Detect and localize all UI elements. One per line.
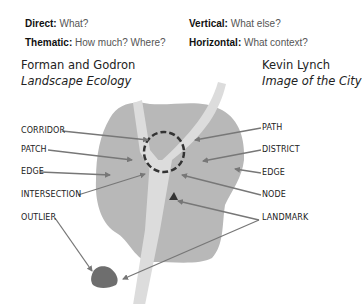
label-intersection: INTERSECTION	[21, 190, 81, 199]
label-path: PATH	[262, 123, 282, 132]
label-district: DISTRICT	[262, 145, 300, 154]
label-outlier: OUTLIER	[21, 213, 56, 222]
label-landmark: LANDMARK	[262, 213, 308, 222]
label-node: NODE	[262, 190, 286, 199]
label-patch: PATCH	[21, 145, 47, 154]
label-corridor: CORRIDOR	[21, 126, 65, 135]
label-edge-left: EDGE	[21, 167, 44, 176]
outlier-shape	[91, 266, 118, 288]
label-edge-right: EDGE	[262, 168, 285, 177]
landscape-diagram	[0, 0, 362, 304]
